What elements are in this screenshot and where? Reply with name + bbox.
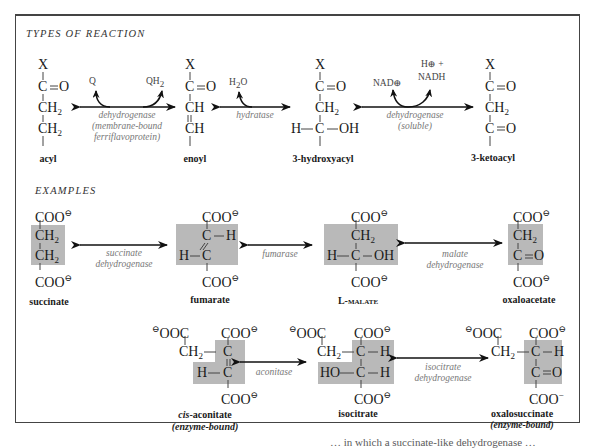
- molecule-name-ketoacyl: 3-ketoacyl: [462, 152, 524, 163]
- atom-h: H: [291, 122, 301, 136]
- group-coo-minus: COO⊖: [513, 206, 550, 225]
- group-ch: CH: [185, 101, 204, 115]
- atom-h: H: [179, 249, 189, 263]
- group-ch2: CH2: [315, 101, 339, 119]
- group-coo-minus: COO⊖: [354, 322, 391, 341]
- group-coo-minus: COO⊖: [221, 322, 258, 341]
- molecule-name-acyl: acyl: [28, 153, 68, 164]
- atom-c: C: [202, 249, 211, 263]
- cofactor-h2o: H2O: [229, 77, 247, 90]
- molecule-name-oxalosuccinate: oxalosuccinate: [482, 408, 562, 419]
- group-coo-minus: COO⊖: [529, 322, 566, 341]
- atom-c: C: [356, 366, 365, 380]
- atom-o: O: [506, 80, 516, 94]
- group-coo-minus: COO⊖: [35, 271, 72, 290]
- atom-x: X: [185, 58, 195, 72]
- atom-o: O: [552, 366, 562, 380]
- group-coo-minus: COO⊖: [354, 388, 391, 407]
- atom-o: O: [59, 80, 69, 94]
- atom-c: C: [356, 345, 365, 359]
- group-coo-minus: COO⊖: [202, 271, 239, 290]
- group-ch2: CH2: [35, 249, 59, 267]
- atom-h: H: [226, 229, 236, 243]
- group-ooc-minus: ⊖OOC: [465, 322, 502, 341]
- group-oh: OH: [339, 122, 359, 136]
- atom-o: O: [336, 80, 346, 94]
- group-coo-minus: COO⊖: [351, 206, 388, 225]
- caption-fragment: … in which a succinate-like dehydrogenas…: [330, 436, 536, 448]
- group-ch2: CH2: [179, 345, 203, 363]
- cofactor-h-plus: H⊕ +: [421, 58, 444, 69]
- group-ch2: CH2: [485, 101, 509, 119]
- group-coo-minus: COO⊖: [221, 388, 258, 407]
- molecule-name-hydroxyacyl: 3-hydroxyacyl: [285, 153, 361, 164]
- group-ho: HO: [320, 366, 340, 380]
- atom-x: X: [38, 58, 48, 72]
- molecule-note-enzyme-bound: (enzyme-bound): [165, 421, 245, 432]
- atom-c: C: [351, 249, 360, 263]
- group-ch2: CH2: [491, 345, 515, 363]
- group-ooc-minus: ⊖OOC: [152, 322, 189, 341]
- group-coo-minus: COO⊖: [35, 206, 72, 225]
- group-ch2: CH2: [35, 229, 59, 247]
- group-ch2: CH2: [513, 229, 537, 247]
- molecule-name-succinate: succinate: [22, 296, 76, 307]
- group-coo-minus: COO⊖: [202, 206, 239, 225]
- group-ch2: CH2: [317, 345, 341, 363]
- molecule-note-enzyme-bound: (enzyme-bound): [482, 420, 562, 430]
- atom-h: H: [380, 345, 390, 359]
- cofactor-nadh: NADH: [418, 72, 445, 82]
- cofactor-q: Q: [89, 76, 96, 86]
- group-ch2: CH2: [38, 122, 62, 140]
- bonds-and-arrows: [0, 0, 591, 448]
- atom-h: H: [380, 366, 390, 380]
- atom-c: C: [202, 229, 211, 243]
- enzyme-aconitase: aconitase: [244, 367, 304, 378]
- enzyme-dehydrogenase-membrane: dehydrogenase (membrane-bound ferriflavo…: [82, 110, 172, 143]
- group-coo-minus-plain: COO−: [529, 388, 564, 407]
- atom-c: C: [185, 80, 194, 94]
- enzyme-isocitrate-dehydrogenase: isocitrate dehydrogenase: [405, 362, 481, 384]
- atom-c: C: [223, 345, 232, 359]
- enzyme-hydratase: hydratase: [225, 110, 285, 121]
- atom-h: H: [197, 366, 207, 380]
- group-ch2: CH2: [351, 229, 375, 247]
- atom-o: O: [534, 249, 544, 263]
- enzyme-malate-dehydrogenase: malate dehydrogenase: [420, 249, 490, 271]
- molecule-name-enoyl: enoyl: [175, 153, 215, 164]
- atom-h: H: [554, 345, 564, 359]
- atom-x: X: [485, 58, 495, 72]
- atom-c: C: [38, 80, 47, 94]
- enzyme-fumarase: fumarase: [252, 249, 308, 260]
- molecule-name-fumarate: fumarate: [185, 294, 235, 305]
- atom-x: X: [315, 58, 325, 72]
- group-ch2: CH2: [38, 101, 62, 119]
- cofactor-qh2: QH2: [146, 76, 164, 89]
- molecule-name-l-malate: L-malate: [334, 295, 382, 306]
- group-ch: CH: [185, 122, 204, 136]
- cofactor-nad: NAD⊕: [373, 77, 402, 88]
- atom-o: O: [206, 80, 216, 94]
- group-ooc-minus: ⊖OOC: [289, 322, 326, 341]
- group-coo-minus: COO⊖: [513, 271, 550, 290]
- molecule-name-cis-aconitate: cis-aconitate: [165, 409, 245, 420]
- enzyme-succinate-dehydrogenase: succinate dehydrogenase: [92, 248, 156, 270]
- atom-o: O: [506, 122, 516, 136]
- atom-c: C: [531, 345, 540, 359]
- enzyme-dehydrogenase-soluble: dehydrogenase (soluble): [375, 110, 455, 132]
- molecule-name-oxaloacetate: oxaloacetate: [497, 294, 561, 305]
- atom-c: C: [315, 80, 324, 94]
- atom-c: C: [531, 366, 540, 380]
- group-coo-minus: COO⊖: [351, 271, 388, 290]
- atom-c: C: [485, 122, 494, 136]
- atom-c: C: [223, 366, 232, 380]
- atom-c: C: [485, 80, 494, 94]
- atom-c: C: [315, 122, 324, 136]
- atom-h: H: [327, 249, 337, 263]
- atom-c: C: [513, 249, 522, 263]
- molecule-name-isocitrate: isocitrate: [330, 408, 386, 419]
- group-oh: OH: [374, 249, 394, 263]
